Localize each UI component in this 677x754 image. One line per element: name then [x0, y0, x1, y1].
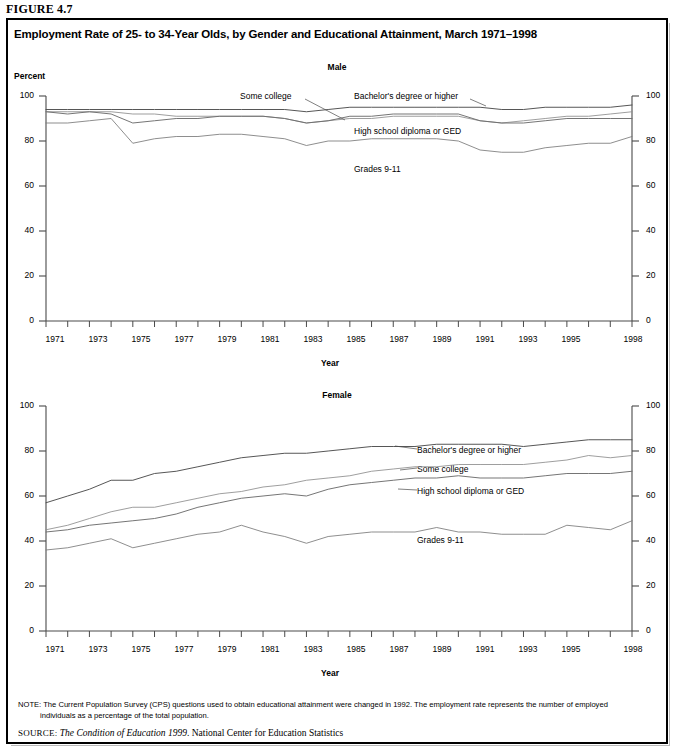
male-series-3	[46, 119, 632, 153]
chart-plot-layer	[0, 0, 677, 754]
source-prefix: SOURCE:	[18, 728, 57, 738]
source-line: SOURCE: The Condition of Education 1999.…	[18, 728, 652, 738]
female-series-3	[46, 521, 632, 550]
annotation-leader-0	[305, 99, 345, 120]
source-title: The Condition of Education 1999	[60, 728, 187, 738]
male-series-2	[46, 112, 632, 123]
annotation-leader-1	[470, 99, 486, 106]
source-rest: . National Center for Education Statisti…	[187, 728, 343, 738]
note-prefix: NOTE:	[18, 700, 41, 709]
male-panel	[39, 96, 639, 327]
annotation-leader-4	[398, 489, 417, 490]
note-text: The Current Population Survey (CPS) ques…	[43, 700, 608, 709]
note-line-2: individuals as a percentage of the total…	[18, 711, 652, 722]
male-series-0	[46, 105, 632, 112]
female-series-1	[46, 456, 632, 530]
note-line-1: NOTE: The Current Population Survey (CPS…	[18, 700, 652, 711]
female-panel	[39, 406, 639, 637]
notes-block: NOTE: The Current Population Survey (CPS…	[18, 700, 652, 738]
female-series-0	[46, 440, 632, 503]
figure-page: FIGURE 4.7 Employment Rate of 25- to 34-…	[0, 0, 677, 754]
